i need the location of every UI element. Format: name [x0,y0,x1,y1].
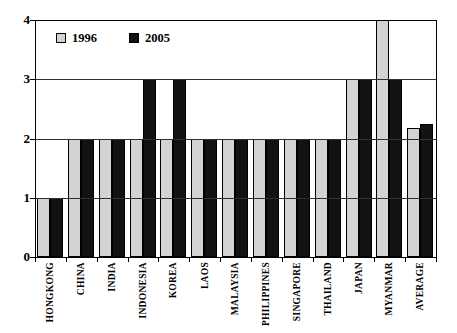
bar-2005-hongkong [50,198,63,257]
x-category-label-philippines: PHILIPPINES [261,262,271,326]
x-tick-8 [282,258,283,262]
legend-swatch-1996 [56,33,66,43]
x-tick-13 [436,258,437,262]
y-tick-3 [30,79,35,80]
x-tick-12 [405,258,406,262]
bar-2005-japan [359,79,372,257]
legend-item-1996: 1996 [56,32,97,44]
x-tick-0 [35,258,36,262]
x-tick-7 [251,258,252,262]
legend: 1996 2005 [56,32,170,44]
legend-label-1996: 1996 [72,32,97,44]
gridline-2 [35,139,436,140]
x-category-label-thailand: THAILAND [323,262,333,316]
x-category-label-singapore: SINGAPORE [292,262,302,321]
x-tick-6 [220,258,221,262]
gridline-1 [35,198,436,199]
x-category-label-malaysia: MALAYSIA [231,262,241,315]
bar-2005-myanmar [389,79,402,257]
x-category-label-korea: KOREA [169,262,179,298]
bar-2005-indonesia [143,79,156,257]
legend-swatch-2005 [129,33,139,43]
y-tick-2 [30,139,35,140]
gridline-3 [35,79,436,80]
bar-1996-japan [346,79,359,257]
x-category-label-myanmar: MYANMAR [385,262,395,315]
x-category-label-average: AVERAGE [416,262,426,310]
x-tick-5 [189,258,190,262]
legend-label-2005: 2005 [145,32,170,44]
x-category-label-hongkong: HONGKONG [45,262,55,322]
x-category-label-india: INDIA [107,262,117,291]
y-tick-4 [30,20,35,21]
x-category-label-indonesia: INDONESIA [138,262,148,319]
y-tick-1 [30,198,35,199]
x-tick-3 [128,258,129,262]
x-tick-10 [343,258,344,262]
legend-item-2005: 2005 [129,32,170,44]
bar-2005-average [420,124,433,257]
bar-1996-hongkong [37,198,50,257]
bar-2005-korea [173,79,186,257]
bar-chart: 01234 HONGKONGCHINAINDIAINDONESIAKOREALA… [0,0,457,333]
x-category-label-japan: JAPAN [354,262,364,294]
x-category-label-laos: LAOS [200,262,210,289]
bar-1996-average [407,128,420,257]
x-tick-11 [374,258,375,262]
x-tick-4 [158,258,159,262]
x-tick-9 [313,258,314,262]
x-tick-1 [66,258,67,262]
x-category-label-china: CHINA [76,262,86,295]
x-tick-2 [97,258,98,262]
